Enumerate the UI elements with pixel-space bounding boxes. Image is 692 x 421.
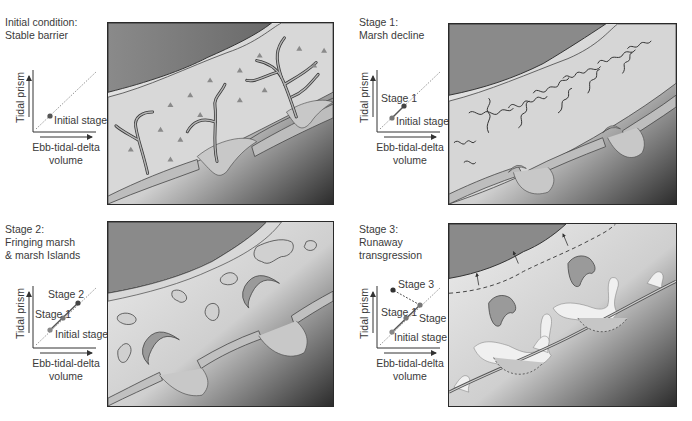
y-axis-label: Tidal prism bbox=[358, 288, 370, 339]
y-axis-label: Tidal prism bbox=[14, 288, 26, 339]
point-stage-2 bbox=[75, 300, 80, 305]
stage-1-title: Stage 1: Marsh decline bbox=[359, 16, 424, 42]
point-label-stage-1: Stage 1 bbox=[35, 308, 71, 320]
point-label-stage-1: Stage 1 bbox=[381, 306, 417, 318]
point-label-initial: Initial stage bbox=[394, 331, 447, 343]
point-stage-3 bbox=[390, 287, 395, 292]
stage-1-inset-chart: Tidal prism Stage 1 Initial stage Ebb-ti… bbox=[348, 62, 452, 172]
stage-3-inset-chart: Tidal prism Stage 3 Stage 1 Stage 2 Init… bbox=[348, 278, 452, 388]
map-stage-1 bbox=[449, 24, 676, 204]
map-initial bbox=[108, 23, 333, 204]
x-axis-label: Ebb-tidal-delta volume bbox=[365, 357, 455, 383]
stage-1-map-panel bbox=[448, 23, 677, 205]
point-label-stage-3: Stage 3 bbox=[398, 278, 434, 290]
stage-initial-title: Initial condition: Stable barrier bbox=[5, 16, 77, 42]
point-label-initial: Initial stage bbox=[55, 328, 108, 340]
point-initial-stage bbox=[389, 115, 394, 120]
stage-initial-inset-chart: Tidal prism Initial stage Ebb-tidal-delt… bbox=[4, 62, 108, 172]
map-stage-3 bbox=[449, 224, 676, 406]
map-stage-2 bbox=[108, 222, 333, 406]
x-axis-label: Ebb-tidal-delta volume bbox=[21, 141, 111, 167]
stage-2-map-panel bbox=[107, 221, 334, 407]
stage-3-map-panel bbox=[448, 223, 677, 407]
point-initial-stage bbox=[47, 113, 52, 118]
point-initial-stage bbox=[47, 327, 52, 332]
point-stage-1 bbox=[401, 103, 406, 108]
x-axis-label: Ebb-tidal-delta volume bbox=[365, 141, 455, 167]
point-stage-2 bbox=[417, 302, 422, 307]
stage-2-inset-chart: Tidal prism Stage 2 Stage 1 Initial stag… bbox=[4, 278, 108, 388]
point-label-initial: Initial stage bbox=[396, 115, 449, 127]
x-axis-label: Ebb-tidal-delta volume bbox=[21, 357, 111, 383]
stage-2-title: Stage 2: Fringing marsh & marsh Islands bbox=[5, 223, 80, 262]
point-label-initial: Initial stage bbox=[54, 114, 107, 126]
point-label-stage-2: Stage 2 bbox=[48, 288, 84, 300]
point-label-stage-1: Stage 1 bbox=[381, 92, 417, 104]
stage-3-title: Stage 3: Runaway transgression bbox=[359, 223, 422, 262]
stage-initial-map-panel bbox=[107, 22, 334, 205]
y-axis-label: Tidal prism bbox=[358, 72, 370, 123]
y-axis-label: Tidal prism bbox=[14, 72, 26, 123]
